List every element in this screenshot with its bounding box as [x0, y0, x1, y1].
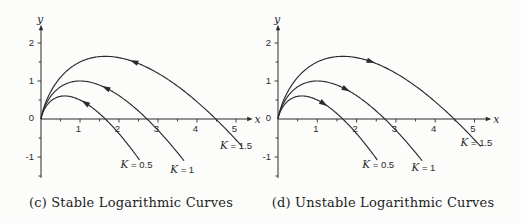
- y-tick-label--1: -1: [263, 151, 271, 162]
- y-axis-label: y: [36, 13, 44, 26]
- x-tick-label-5: 5: [232, 123, 237, 134]
- curve-k-1: [278, 81, 422, 160]
- plot-unstable: 12345-1012xyK = 0.5K = 1K = 1.5: [263, 13, 501, 178]
- curve-label-k-1: K = 1: [410, 161, 435, 173]
- x-tick-label-1: 1: [76, 123, 81, 134]
- flow-arrowhead-k-1.5: [130, 60, 139, 65]
- flow-arrowhead-k-0.5: [82, 101, 91, 108]
- plots-canvas: 12345-1012xyK = 0.5K = 1K = 1.512345-101…: [0, 0, 521, 223]
- x-tick-label-4: 4: [193, 123, 198, 134]
- curve-k-1.5: [41, 56, 242, 146]
- curve-k-1.5: [278, 56, 480, 146]
- x-axis-label: x: [493, 113, 500, 126]
- x-tick-label-4: 4: [431, 123, 436, 134]
- curve-k-0.5: [278, 96, 377, 160]
- x-tick-label-1: 1: [313, 123, 318, 134]
- curve-label-k-1.5: K = 1.5: [219, 139, 252, 151]
- y-tick-label-1: 1: [29, 75, 34, 86]
- curve-k-0.5: [41, 96, 139, 160]
- x-axis-arrowhead: [247, 117, 253, 121]
- flow-arrowhead-k-0.5: [319, 99, 328, 106]
- x-axis-label: x: [255, 113, 262, 126]
- x-axis-arrowhead: [486, 117, 492, 121]
- flow-arrowhead-k-1: [102, 86, 111, 92]
- curve-k-1: [41, 81, 184, 160]
- y-tick-label--1: -1: [26, 151, 34, 162]
- curve-label-k-0.5: K = 0.5: [120, 158, 153, 170]
- y-tick-label-2: 2: [266, 37, 271, 48]
- y-tick-label-0: 0: [29, 112, 34, 123]
- curve-label-k-1.5: K = 1.5: [460, 136, 493, 148]
- y-tick-label-0: 0: [266, 112, 271, 123]
- plot-stable: 12345-1012xyK = 0.5K = 1K = 1.5: [26, 13, 262, 178]
- caption-stable-plot: (c) Stable Logarithmic Curves: [11, 195, 251, 213]
- curve-label-k-1: K = 1: [169, 163, 194, 175]
- x-tick-label-5: 5: [470, 123, 475, 134]
- caption-unstable-plot: (d) Unstable Logarithmic Curves: [263, 195, 503, 213]
- y-tick-label-2: 2: [29, 37, 34, 48]
- flow-arrowhead-k-1.5: [366, 58, 375, 63]
- y-axis-label: y: [273, 13, 281, 26]
- y-tick-label-1: 1: [266, 75, 271, 86]
- curve-label-k-0.5: K = 0.5: [361, 158, 394, 170]
- flow-arrowhead-k-1: [341, 85, 350, 91]
- figure-logarithmic-curves: 12345-1012xyK = 0.5K = 1K = 1.512345-101…: [0, 0, 521, 223]
